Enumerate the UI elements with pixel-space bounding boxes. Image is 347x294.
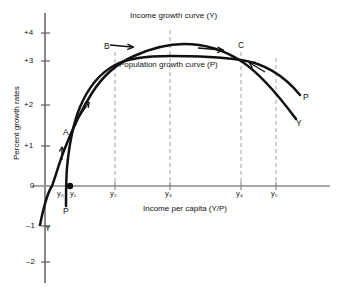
x-tick-label-y4: y₄ (236, 189, 243, 198)
income-curve-label: Income growth curve (Y) (130, 11, 217, 20)
x-tick-label-y0: y₀ (57, 189, 64, 198)
x-tick-label-y3: y₃ (165, 189, 172, 198)
y-tick-label-0: 0 (30, 181, 34, 190)
x-axis-title: Income per capita (Y/P) (143, 204, 227, 213)
y-tick-label-2: +2 (24, 100, 33, 109)
y-tick-label-1: +1 (24, 141, 33, 150)
economics-growth-chart: Percent growth rates +4 +3 +2 +1 0 –1 –2… (0, 0, 347, 294)
population-growth-curve (66, 56, 300, 206)
x-tick-label-y1: y₁ (70, 189, 76, 198)
y-curve-right-endpoint-label: Y (296, 118, 302, 128)
population-curve-label: Population growth curve (P) (119, 60, 218, 69)
chart-canvas (0, 0, 347, 294)
y-tick-label-neg1: –1 (26, 221, 35, 230)
y-tick-label-neg2: –2 (26, 257, 35, 266)
y-tick-label-3: +3 (24, 56, 33, 65)
axis-group (32, 13, 330, 283)
point-label-c: C (238, 40, 244, 50)
p-curve-right-endpoint-label: P (303, 92, 309, 102)
point-label-a: A (63, 127, 69, 137)
x-tick-label-y2: y₂ (110, 189, 117, 198)
point-label-b: B (104, 41, 110, 51)
y-tick-label-4: +4 (24, 28, 33, 37)
y-curve-left-endpoint-label: Y (45, 223, 51, 233)
p-curve-left-endpoint-label: P (63, 206, 69, 216)
y-axis-title: Percent growth rates (12, 86, 21, 160)
x-tick-label-y5: y₅ (271, 189, 278, 198)
